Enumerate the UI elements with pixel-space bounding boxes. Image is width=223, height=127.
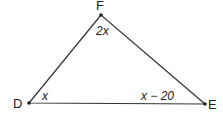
vertex-f-dot bbox=[99, 13, 103, 17]
vertex-label-d: D bbox=[13, 96, 22, 111]
angle-label-e: x − 20 bbox=[140, 89, 174, 103]
angle-label-d: x bbox=[41, 89, 49, 103]
vertex-label-e: E bbox=[208, 97, 217, 112]
vertex-d-dot bbox=[27, 101, 31, 105]
triangle-diagram: F D E 2x x x − 20 bbox=[0, 0, 223, 127]
vertex-e-dot bbox=[203, 102, 207, 106]
triangle-def bbox=[29, 15, 205, 104]
angle-label-f: 2x bbox=[95, 24, 110, 38]
vertex-label-f: F bbox=[96, 0, 104, 13]
